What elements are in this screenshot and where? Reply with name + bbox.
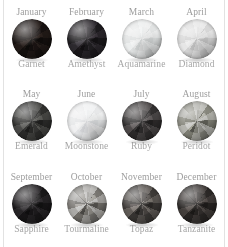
month-label: March: [129, 7, 154, 18]
gem-circle: [177, 19, 217, 59]
gem-shadow: [15, 57, 49, 63]
gem-image-tanzanite: [177, 184, 217, 224]
gem-circle: [122, 101, 162, 141]
gem-image-peridot: [177, 101, 217, 141]
gem-circle: [177, 184, 217, 224]
birthstone-cell-april[interactable]: April Diamond: [169, 0, 224, 82]
birthstone-row: May Emerald June Moonstone: [4, 82, 224, 164]
month-label: January: [16, 7, 46, 18]
gem-shadow: [70, 57, 104, 63]
birthstone-cell-november[interactable]: November Topaz: [114, 165, 169, 247]
birthstone-cell-august[interactable]: August Peridot: [169, 82, 224, 164]
month-label: July: [133, 89, 149, 100]
birthstone-cell-october[interactable]: October Tourmaline: [59, 165, 114, 247]
gem-image-diamond: [177, 19, 217, 59]
birthstone-row: September Sapphire October Tourmal: [4, 165, 224, 247]
gem-shadow: [125, 139, 159, 145]
birthstone-chart: January Garnet February Amethyst: [0, 0, 228, 247]
gem-shadow: [125, 57, 159, 63]
gem-circle: [122, 184, 162, 224]
right-edge-rule: [224, 0, 225, 247]
gem-circle: [12, 101, 52, 141]
month-label: December: [177, 172, 217, 183]
birthstone-cell-february[interactable]: February Amethyst: [59, 0, 114, 82]
gem-circle: [177, 101, 217, 141]
gem-shadow: [180, 222, 214, 228]
birthstone-cell-march[interactable]: March Aquamarine: [114, 0, 169, 82]
birthstone-grid: January Garnet February Amethyst: [4, 0, 224, 247]
birthstone-cell-may[interactable]: May Emerald: [4, 82, 59, 164]
gem-image-garnet: [12, 19, 52, 59]
month-label: September: [11, 172, 53, 183]
birthstone-cell-december[interactable]: December Tanzanite: [169, 165, 224, 247]
gem-shadow: [180, 57, 214, 63]
gem-image-moonstone: [67, 101, 107, 141]
gem-shadow: [70, 222, 104, 228]
birthstone-cell-january[interactable]: January Garnet: [4, 0, 59, 82]
gem-circle: [67, 184, 107, 224]
gem-image-tourmaline: [67, 184, 107, 224]
birthstone-cell-june[interactable]: June Moonstone: [59, 82, 114, 164]
gem-circle: [12, 19, 52, 59]
gem-image-aquamarine: [122, 19, 162, 59]
month-label: June: [78, 89, 96, 100]
month-label: October: [71, 172, 102, 183]
gem-circle: [122, 19, 162, 59]
gem-image-sapphire: [12, 184, 52, 224]
month-label: August: [182, 89, 210, 100]
gem-image-amethyst: [67, 19, 107, 59]
birthstone-row: January Garnet February Amethyst: [4, 0, 224, 82]
gem-circle: [67, 101, 107, 141]
month-label: May: [23, 89, 41, 100]
gem-image-topaz: [122, 184, 162, 224]
gem-shadow: [125, 222, 159, 228]
gem-image-emerald: [12, 101, 52, 141]
gem-image-ruby: [122, 101, 162, 141]
gem-circle: [12, 184, 52, 224]
month-label: February: [69, 7, 104, 18]
month-label: November: [121, 172, 162, 183]
gem-shadow: [15, 222, 49, 228]
month-label: April: [186, 7, 207, 18]
birthstone-cell-july[interactable]: July Ruby: [114, 82, 169, 164]
gem-circle: [67, 19, 107, 59]
birthstone-cell-september[interactable]: September Sapphire: [4, 165, 59, 247]
